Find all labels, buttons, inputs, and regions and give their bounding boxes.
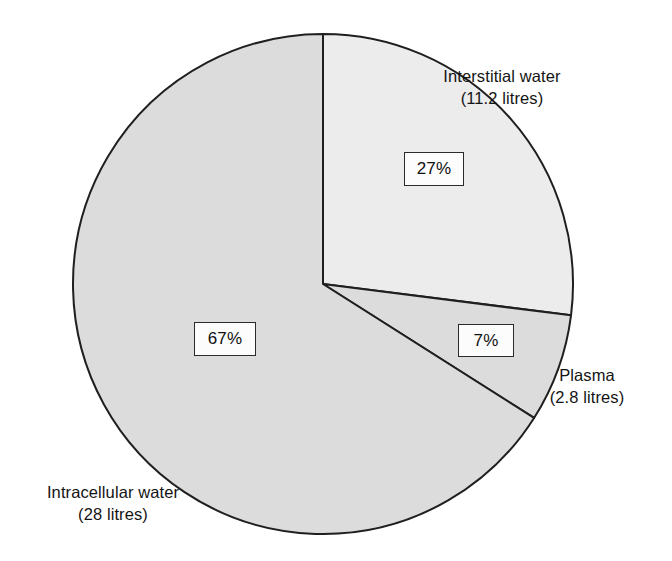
label-interstitial-water-name: Interstitial water	[443, 66, 560, 88]
label-plasma-value: (2.8 litres)	[550, 387, 625, 409]
label-interstitial-water-value: (11.2 litres)	[443, 88, 560, 110]
label-intracellular-water-value: (28 litres)	[47, 504, 179, 526]
pie-chart-figure: Interstitial water (11.2 litres) Plasma …	[0, 0, 672, 561]
label-plasma: Plasma (2.8 litres)	[550, 365, 625, 409]
label-intracellular-water-name: Intracellular water	[47, 482, 179, 504]
label-intracellular-water: Intracellular water (28 litres)	[47, 482, 179, 526]
label-interstitial-water: Interstitial water (11.2 litres)	[443, 66, 560, 110]
label-plasma-name: Plasma	[550, 365, 625, 387]
percent-badge-interstitial-water: 27%	[404, 152, 464, 186]
percent-badge-intracellular-water: 67%	[194, 322, 256, 356]
percent-badge-plasma: 7%	[458, 324, 514, 357]
pie-chart-canvas	[0, 0, 672, 561]
